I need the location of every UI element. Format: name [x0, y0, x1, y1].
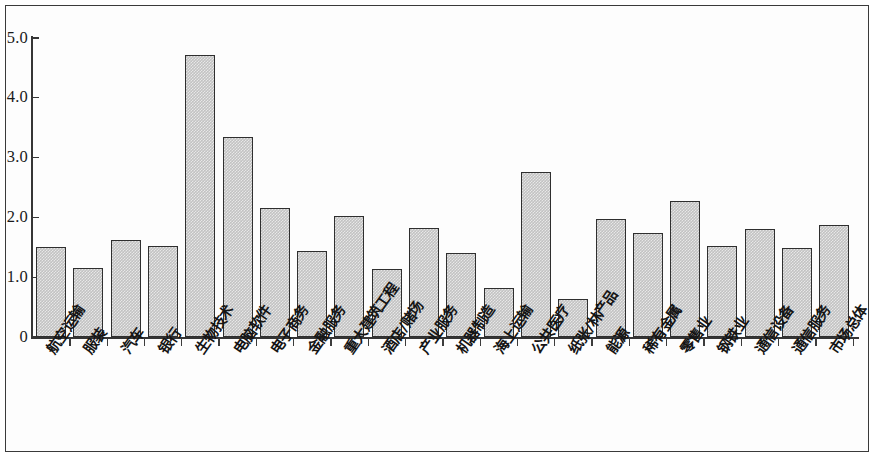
y-axis-tick-label: 5.0	[7, 30, 28, 47]
chart-page: 01.02.03.04.05.0 航空运输服装汽车银行生物技术电脑软件电子商务金…	[0, 0, 875, 457]
bar	[148, 246, 178, 337]
y-axis-line	[31, 36, 33, 338]
bar	[111, 240, 141, 337]
y-axis-tick	[31, 217, 39, 218]
y-axis-tick	[31, 157, 39, 158]
y-axis-tick-label: 2.0	[7, 209, 28, 226]
y-axis-tick-label: 4.0	[7, 89, 28, 106]
y-axis-tick-label: 1.0	[7, 269, 28, 286]
y-axis-tick-label: 3.0	[7, 149, 28, 166]
y-axis-tick-labels: 01.02.03.04.05.0	[0, 0, 28, 360]
y-axis-tick	[31, 37, 39, 38]
bar	[185, 55, 215, 337]
y-axis-tick-label: 0	[20, 329, 28, 346]
x-axis-tick	[368, 338, 369, 346]
y-axis-tick	[31, 97, 39, 98]
x-axis-tick	[741, 338, 742, 346]
